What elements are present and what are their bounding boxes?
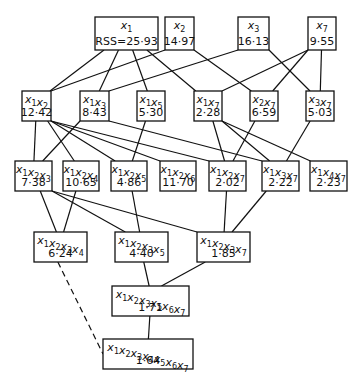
edge-x1x2x5-to-x1x2x3x5 [132,191,140,232]
node-layer: x1RSS=25·93x214·97x316·13x79·55x1x212·42… [15,17,347,374]
node-rss-value: RSS=25·93 [95,35,157,48]
edge-x2-to-x2x7 [194,50,251,91]
node-rss-value: 16·13 [238,35,270,48]
node-rss-value: 4·40 [129,247,154,260]
node-rss-value: 6·59 [252,106,277,119]
node-x1x3: x1x38·43 [80,91,109,121]
node-x1x2x5: x1x2x54·86 [111,161,147,191]
node-rss-value: 2·22 [268,176,293,189]
node-rss-value: 14·97 [164,35,196,48]
node-x3: x316·13 [238,17,270,50]
node-x1x2x3x5: x1x2x3x54·40 [115,232,168,262]
edge-x1x2x3x5x6x7-to-x1x2x3x4x5x6x7 [148,316,150,339]
node-x1x2x4: x1x2x410·65 [63,161,99,191]
edge-x1x2x4-to-x1x2x3x4 [64,191,76,232]
node-rss-value: 11·70 [162,176,194,189]
node-rss-value: 2·28 [196,106,221,119]
node-rss-value: 2·02 [215,176,240,189]
node-x1x2x3x4: x1x2x3x46·24 [34,232,87,262]
node-x1x2x3x4x5x6x7: x1x2x3x4x5x6x71·64 [103,339,193,374]
edge-x1x7-to-x1x4x7 [222,121,310,161]
edge-x1x2-to-x1x2x3 [34,121,36,161]
node-rss-value: 1·85 [211,247,236,260]
node-rss-value: 8·43 [82,106,107,119]
edge-x1x2x3-to-x1x2x3x5 [52,191,125,232]
edge-x1-to-x1x2 [50,50,104,91]
edge-x1-to-x1x7 [147,50,196,91]
node-rss-value: 12·42 [21,106,53,119]
node-x1x2x3x7: x1x2x3x71·85 [197,232,250,262]
node-x1x2x3x5x6x7: x1x2x3x5x6x71·71 [112,286,189,318]
node-rss-value: 7·38 [21,176,46,189]
node-rss-value: 4·86 [117,176,142,189]
node-rss-value: 6·24 [48,247,73,260]
edge-x7-to-x1x7 [222,50,308,91]
node-x1x5: x1x55·30 [137,91,165,121]
edge-x1x2x3-to-x1x2x3x4 [40,191,56,232]
edge-x1x2x7-to-x1x2x3x7 [224,191,226,232]
node-x1x7: x1x72·28 [194,91,222,121]
edge-x1x2x3x5-to-x1x2x3x5x6x7 [144,262,149,286]
node-x7: x79·55 [308,17,336,50]
edge-x1x3x7-to-x1x2x3x7 [232,191,266,232]
edge-x1x2x3x4-to-x1x2x3x4x5x6x7 [58,262,103,354]
node-rss-value: 1·71 [138,301,163,314]
node-rss-value: 10·65 [65,176,97,189]
subset-regression-lattice-diagram: x1RSS=25·93x214·97x316·13x79·55x1x212·42… [0,0,360,384]
node-rss-value: 1·64 [136,354,161,367]
node-x2x7: x2x76·59 [250,91,278,121]
node-rss-value: 5·03 [308,106,333,119]
node-x1x2x3: x1x2x37·38 [15,161,52,191]
node-x1x4x7: x1x4x72·23 [310,161,347,191]
node-rss-value: 2·23 [316,176,341,189]
node-x3x7: x3x75·03 [306,91,334,121]
edge-x2-to-x1x2 [51,50,165,91]
edge-x1x7-to-x1x2x7 [213,121,225,161]
node-x1: x1RSS=25·93 [95,17,158,50]
node-x2: x214·97 [164,17,196,50]
edge-x7-to-x3x7 [320,50,321,91]
node-x1x3x7: x1x3x72·22 [262,161,299,191]
edge-x7-to-x2x7 [273,50,308,91]
edge-x1-to-x1x5 [133,50,148,91]
edge-x1x2x3x7-to-x1x2x3x5x6x7 [161,262,205,286]
edge-x1x7-to-x1x3x7 [222,121,270,161]
node-rss-value: 9·55 [310,35,335,48]
node-x1x2x7: x1x2x72·02 [209,161,246,191]
edge-x3-to-x3x7 [269,50,310,91]
edge-x3-to-x1x3 [109,50,238,91]
node-x1x2x6: x1x2x611·70 [160,161,196,191]
node-x1x2: x1x212·42 [21,91,53,121]
node-rss-value: 5·30 [139,106,164,119]
